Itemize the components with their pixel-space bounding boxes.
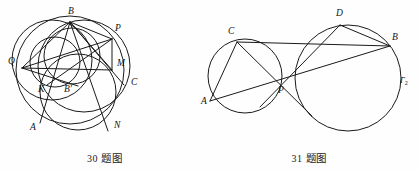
point-label-A: A (200, 96, 207, 106)
figure-31-drawing: D C B P A Γ1 Γ2 (200, 0, 418, 145)
figure-31-gamma-labels: Γ1 Γ2 (200, 65, 408, 86)
figure-30-caption-text: 题图 (101, 152, 122, 164)
point-label-C: C (228, 26, 235, 36)
point-label-B-prime: B' (64, 84, 73, 94)
figure-31-container: D C B P A Γ1 Γ2 31 题图 (200, 0, 418, 171)
segment-BP (70, 22, 112, 39)
point-label-B: B (392, 32, 398, 42)
figure-30-caption-number: 30 (87, 153, 98, 164)
segment-D-through-P (260, 25, 340, 107)
point-label-Q: Q (8, 56, 15, 66)
segment-PK (47, 39, 112, 85)
figure-30-drawing: B P Q M C K B' A N (0, 0, 209, 145)
segment-CA (210, 42, 237, 101)
figure-31-caption-number: 31 (292, 153, 303, 164)
point-label-P: P (277, 85, 284, 95)
figure-31-caption-text: 题图 (306, 152, 327, 164)
figure-sheet: B P Q M C K B' A N 30 题图 (0, 0, 418, 171)
figure-31-segments (210, 25, 390, 116)
point-label-B: B (68, 6, 74, 16)
point-label-N: N (113, 120, 121, 130)
point-label-C: C (131, 77, 138, 87)
circle-lower (40, 54, 116, 130)
point-label-P: P (114, 23, 121, 33)
point-label-M: M (116, 58, 126, 68)
point-label-A: A (29, 122, 36, 132)
figure-30-container: B P Q M C K B' A N 30 题图 (0, 0, 209, 171)
segment-CB (237, 42, 390, 46)
segment-AB (210, 46, 390, 101)
segment-QM (22, 68, 112, 70)
figure-30-circles (12, 16, 130, 130)
point-label-K: K (37, 84, 45, 94)
gamma-2-label: Γ2 (399, 75, 408, 86)
figure-30-caption: 30 题图 (0, 150, 209, 165)
figure-31-circles (208, 25, 401, 131)
figure-31-caption: 31 题图 (200, 150, 418, 165)
point-label-D: D (335, 8, 343, 18)
gamma-2-subscript: 2 (405, 80, 408, 86)
